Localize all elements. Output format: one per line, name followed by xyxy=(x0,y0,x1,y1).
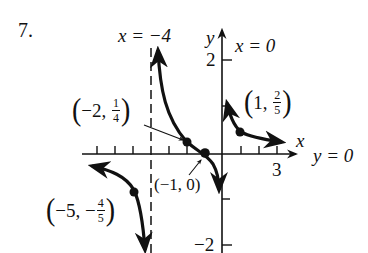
leader-arrow-neg1 xyxy=(189,160,201,175)
point-1-twofifths xyxy=(236,128,245,137)
point-neg5-neg4fifths xyxy=(130,188,139,197)
point-neg2-quarter xyxy=(183,138,192,147)
label-vertical-asymptote: x = −4 xyxy=(118,26,171,45)
label-point-1: (1, 25 ) xyxy=(244,88,292,116)
label-point-neg5: (−5, − 45 ) xyxy=(46,196,115,224)
problem-number: 7. xyxy=(18,20,33,40)
point-neg1-0 xyxy=(200,148,210,158)
label-horizontal-asymptote: y = 0 xyxy=(313,146,353,165)
tick-label-y-2: 2 xyxy=(206,50,216,69)
curve-middle-branch xyxy=(158,50,219,190)
tick-label-x-3: 3 xyxy=(272,160,282,179)
y-axis-label: y xyxy=(206,28,214,47)
y-axis xyxy=(222,30,232,253)
tick-label-y-neg2: −2 xyxy=(194,235,214,253)
graph-figure: 7. x = −4 x = 0 y = 0 y x 2 −2 3 (−2, 14… xyxy=(0,0,368,253)
x-axis-label: x xyxy=(296,131,304,150)
label-y-axis-asymptote: x = 0 xyxy=(235,36,275,55)
label-point-neg1: (−1, 0) xyxy=(154,176,200,193)
x-axis xyxy=(82,146,296,154)
label-point-neg2: (−2, 14 ) xyxy=(72,96,130,124)
